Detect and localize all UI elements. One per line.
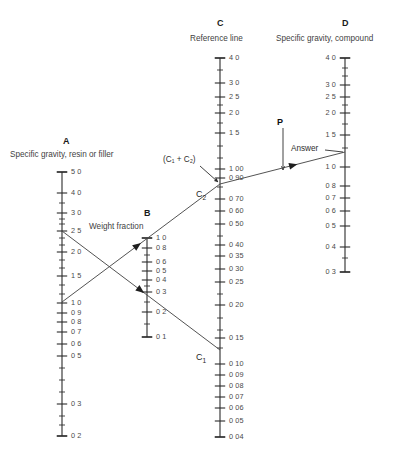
scale-b-tick-label: 0 4 — [156, 275, 166, 284]
scale-c-tick-label: 0 15 — [229, 333, 244, 342]
scale-b-tick-label: 0 8 — [156, 243, 166, 252]
scale-a-tick-label: 1 0 — [71, 298, 81, 307]
scale-c-tick-label: 0 20 — [229, 300, 244, 309]
scale-b-title: B — [144, 208, 151, 218]
scale-d-tick-label: 0 6 — [326, 206, 336, 215]
scale-d-tick-label: 0 5 — [326, 221, 336, 230]
line-a-to-c1-direction-arrow — [135, 285, 144, 293]
scale-d-tick-label: 0 8 — [326, 181, 336, 190]
scale-a-tick-label: 2 0 — [71, 247, 81, 256]
scale-c-tick-label: 0 50 — [229, 219, 244, 228]
scale-a-tick-label: 0 7 — [71, 327, 81, 336]
scale-c-tick-label: 1 00 — [229, 164, 244, 173]
scale-a-tick-label: 0 8 — [71, 317, 81, 326]
scale-c-tick-label: 0 90 — [229, 173, 244, 182]
scale-a-tick-label: 0 6 — [71, 339, 81, 348]
line-c2-to-d-answer-direction-arrow — [288, 163, 297, 170]
answer-annotation-label: Answer — [291, 144, 318, 153]
scale-d-tick-label: 2 5 — [326, 92, 336, 101]
scale-c-tick-label: 0 04 — [229, 432, 244, 441]
scale-c-tick-label: 0 70 — [229, 194, 244, 203]
point-c1-label: C1 — [196, 352, 206, 364]
scale-c-tick-label: 2 5 — [229, 92, 239, 101]
p-annotation-label: P — [277, 117, 283, 127]
scale-c-caption: Reference line — [190, 34, 243, 43]
scale-c-tick-label: 0 10 — [229, 359, 244, 368]
scale-a-tick-label: 0 2 — [71, 431, 81, 440]
scale-b-tick-label: 1 0 — [156, 233, 166, 242]
scale-d-caption: Specific gravity, compound — [276, 34, 373, 43]
scale-a-tick-label: 0 3 — [71, 399, 81, 408]
scale-c-tick-label: 0 60 — [229, 206, 244, 215]
scale-a-tick-label: 4 0 — [71, 188, 81, 197]
nomogram-canvas — [0, 0, 400, 456]
scale-a-tick-label: 1 5 — [71, 271, 81, 280]
scale-b-tick-label: 0 6 — [156, 257, 166, 266]
scale-c-tick-label: 1 5 — [229, 128, 239, 137]
scale-c-tick-label: 0 05 — [229, 416, 244, 425]
scale-c-tick-label: 0 07 — [229, 392, 244, 401]
scale-d-tick-label: 0 7 — [326, 193, 336, 202]
scale-c-tick-label: 0 08 — [229, 381, 244, 390]
scale-d-tick-label: 1 5 — [326, 130, 336, 139]
axes-group — [57, 58, 350, 437]
scale-a-tick-label: 5 0 — [71, 167, 81, 176]
scale-d-tick-label: 0 4 — [326, 242, 336, 251]
scale-b-tick-label: 0 5 — [156, 266, 166, 275]
scale-c-tick-label: 2 0 — [229, 108, 239, 117]
scale-d-tick-label: 0 3 — [326, 267, 336, 276]
scale-a-tick-label: 3 0 — [71, 208, 81, 217]
scale-d-title: D — [342, 18, 349, 28]
scale-a-title: A — [63, 136, 70, 146]
scale-a-caption: Specific gravity, resin or filler — [10, 150, 114, 159]
line-a-to-c2-direction-arrow — [132, 243, 141, 251]
scale-a-tick-label: 2 5 — [71, 226, 81, 235]
scale-c-tick-label: 0 25 — [229, 277, 244, 286]
point-c2-subscript: 2 — [203, 194, 207, 201]
scale-c-tick-label: 0 40 — [229, 240, 244, 249]
sum-annotation-leader — [200, 166, 218, 182]
scale-c-tick-label: 0 35 — [229, 251, 244, 260]
scale-d-tick-label: 2 0 — [326, 108, 336, 117]
answer-annotation-leader — [325, 150, 343, 152]
scale-c-tick-label: 0 06 — [229, 403, 244, 412]
annotation-leaders-group — [200, 128, 343, 182]
sum-annotation-label: (C₁ + C₂) — [163, 155, 196, 164]
scale-d-tick-label: 1 0 — [326, 162, 336, 171]
scale-c-title: C — [217, 18, 224, 28]
scale-a-tick-label: 0 5 — [71, 351, 81, 360]
point-c1-subscript: 1 — [203, 357, 207, 364]
scale-c-tick-label: 3 0 — [229, 78, 239, 87]
nomogram-figure: A Specific gravity, resin or filler B We… — [0, 0, 400, 456]
scale-c-tick-label: 0 30 — [229, 264, 244, 273]
scale-d-tick-label: 3 0 — [326, 80, 336, 89]
construction-lines-group — [62, 152, 345, 350]
scale-b-tick-label: 0 3 — [156, 287, 166, 296]
scale-b-tick-label: 0 1 — [156, 332, 166, 341]
scale-c-tick-label: 4 0 — [229, 53, 239, 62]
scale-b-caption: Weight fraction — [89, 222, 143, 231]
point-c2-label: C2 — [196, 189, 206, 201]
scale-b-tick-label: 0 2 — [156, 307, 166, 316]
scale-d-tick-label: 4 0 — [326, 53, 336, 62]
scale-c-tick-label: 0 09 — [229, 370, 244, 379]
scale-a-tick-label: 0 9 — [71, 308, 81, 317]
